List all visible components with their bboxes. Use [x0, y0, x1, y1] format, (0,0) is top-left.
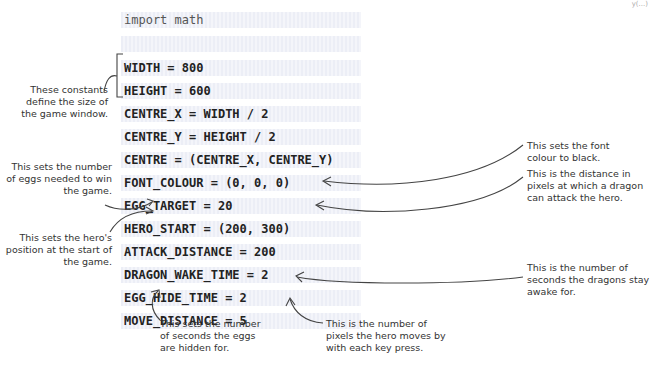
annotation-window-size: These constants define the size of the g… [8, 84, 108, 120]
code-line-dragon-wake-time: DRAGON_WAKE_TIME = 2 [121, 267, 361, 283]
code-line-attack-distance: ATTACK_DISTANCE = 200 [121, 244, 361, 260]
code-line-hero-start: HERO_START = (200, 300) [121, 221, 361, 237]
annotation-hero-start: This sets the hero's position at the sta… [0, 232, 112, 268]
code-line-height: HEIGHT = 600 [121, 83, 361, 99]
code-line-width: WIDTH = 800 [121, 60, 361, 76]
code-line-centre-y: CENTRE_Y = HEIGHT / 2 [121, 129, 361, 145]
annotation-egg-hide: This sets the number of seconds the eggs… [160, 318, 270, 354]
code-line-font-colour: FONT_COLOUR = (0, 0, 0) [121, 175, 361, 191]
corner-label: y(...) [632, 0, 648, 8]
code-line-centre: CENTRE = (CENTRE_X, CENTRE_Y) [121, 152, 361, 168]
annotation-move-distance: This is the number of pixels the hero mo… [326, 318, 456, 354]
code-line-egg-hide-time: EGG_HIDE_TIME = 2 [121, 290, 361, 306]
code-line-blank [121, 36, 361, 52]
annotation-dragon-wake: This is the number of seconds the dragon… [527, 262, 652, 298]
annotation-font-colour: This sets the font colour to black. [527, 140, 637, 164]
code-line-egg-target: EGG_TARGET = 20 [121, 198, 361, 214]
code-line-centre-x: CENTRE_X = WIDTH / 2 [121, 106, 361, 122]
annotation-attack-distance: This is the distance in pixels at which … [527, 168, 657, 204]
code-line-import: import math [121, 12, 361, 28]
annotation-egg-target: This sets the number of eggs needed to w… [0, 161, 112, 197]
